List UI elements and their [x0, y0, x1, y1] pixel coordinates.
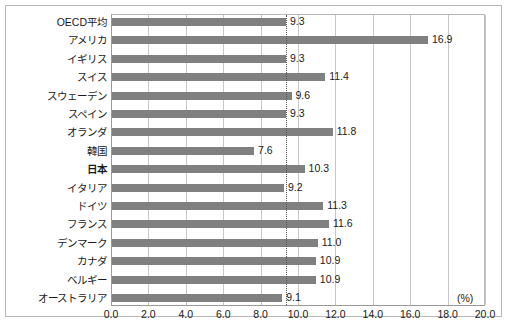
category-label: 日本: [14, 161, 107, 176]
category-label: スウェーデン: [14, 88, 107, 103]
x-tick-label: 10.0: [288, 308, 308, 320]
gridline-20.0: [485, 15, 486, 305]
bar: [112, 18, 286, 26]
gridline-16.0: [410, 15, 411, 305]
bar: [112, 147, 254, 155]
bar: [112, 294, 282, 302]
x-tick-label: 8.0: [253, 308, 268, 320]
bar-value-label: 9.3: [290, 15, 305, 27]
bar: [112, 220, 329, 228]
bar: [112, 92, 292, 100]
bar: [112, 73, 325, 81]
bar-value-label: 9.3: [290, 52, 305, 64]
category-label: オーストラリア: [14, 290, 107, 305]
category-label: フランス: [14, 216, 107, 231]
x-tick-label: 0.0: [104, 308, 119, 320]
category-label: イギリス: [14, 51, 107, 66]
x-tick-label: 2.0: [141, 308, 156, 320]
category-label: スイス: [14, 69, 107, 84]
category-label: アメリカ: [14, 32, 107, 47]
bar: [112, 165, 305, 173]
bar: [112, 36, 428, 44]
category-label: イタリア: [14, 180, 107, 195]
category-label: カナダ: [14, 253, 107, 268]
bar-value-label: 9.2: [288, 181, 303, 193]
bar-value-label: 10.9: [320, 254, 340, 266]
category-label: デンマーク: [14, 235, 107, 250]
category-label: スペイン: [14, 106, 107, 121]
chart-frame: OECD平均アメリカイギリススイススウェーデンスペインオランダ韓国日本イタリアド…: [5, 5, 502, 317]
bar-value-label: 11.3: [327, 199, 347, 211]
bar-value-label: 9.1: [286, 291, 301, 303]
bar-value-label: 9.3: [290, 107, 305, 119]
bar-value-label: 11.0: [322, 236, 342, 248]
category-label: ベルギー: [14, 272, 107, 287]
plot-area: 9.316.99.311.49.69.311.87.610.39.211.311…: [111, 14, 485, 306]
category-label: 韓国: [14, 143, 107, 158]
x-tick-label: 20.0: [475, 308, 495, 320]
bar-value-label: 11.4: [329, 70, 349, 82]
reference-line: [286, 15, 287, 305]
x-tick-label: 16.0: [400, 308, 420, 320]
x-tick-label: 12.0: [325, 308, 345, 320]
bar-value-label: 9.6: [296, 89, 311, 101]
category-label: OECD平均: [14, 14, 107, 29]
x-axis-unit-label: (%): [457, 292, 473, 304]
bar-value-label: 10.9: [320, 273, 340, 285]
x-tick-label: 4.0: [178, 308, 193, 320]
bar-value-label: 7.6: [258, 144, 273, 156]
x-tick-label: 14.0: [363, 308, 383, 320]
gridline-18.0: [448, 15, 449, 305]
bar: [112, 55, 286, 63]
bar: [112, 110, 286, 118]
bar: [112, 184, 284, 192]
bar-value-label: 11.8: [337, 125, 357, 137]
x-tick-label: 18.0: [437, 308, 457, 320]
bar-value-label: 11.6: [333, 217, 353, 229]
gridline-14.0: [373, 15, 374, 305]
bar: [112, 128, 333, 136]
bar-value-label: 16.9: [432, 33, 452, 45]
x-tick-label: 6.0: [216, 308, 231, 320]
category-label: ドイツ: [14, 198, 107, 213]
category-label: オランダ: [14, 124, 107, 139]
bar: [112, 202, 323, 210]
bar-value-label: 10.3: [309, 162, 329, 174]
